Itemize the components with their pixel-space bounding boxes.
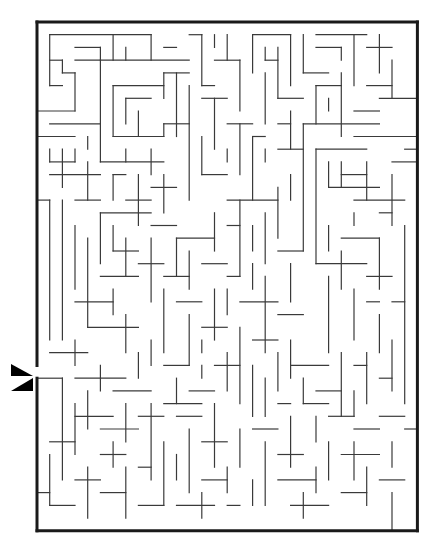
maze-walls — [37, 35, 417, 531]
entrance-markers — [11, 364, 33, 391]
maze-board — [0, 0, 441, 554]
arrow-out-icon — [11, 378, 33, 391]
arrow-in-icon — [11, 364, 33, 376]
